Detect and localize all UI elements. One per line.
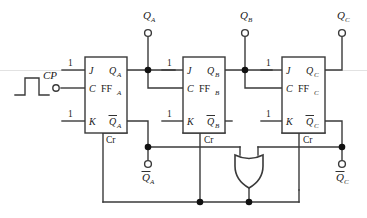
ffb-c-label: C <box>187 83 194 94</box>
ffc-c-label: C <box>286 83 293 94</box>
terminal-qb[interactable] <box>242 30 249 37</box>
ffb-name-sub: B <box>215 89 220 97</box>
ffc-qbar-label: Q <box>306 116 314 127</box>
label-qbara-sub: A <box>149 178 155 186</box>
ffc-j-label: J <box>286 65 291 76</box>
logic-one-kb: 1 <box>167 109 172 119</box>
ffb-q-sub: B <box>215 71 220 79</box>
label-qb: Q <box>240 9 248 21</box>
label-qb-sub: B <box>248 16 253 24</box>
junction-bus-crb <box>197 199 204 206</box>
terminal-qc[interactable] <box>339 30 346 37</box>
ffa-q-label: Q <box>109 65 117 76</box>
ffa-q-sub: A <box>116 71 122 79</box>
ffb-j-label: J <box>187 65 192 76</box>
logic-one-jb: 1 <box>167 58 172 68</box>
wire-qc-out <box>325 36 342 70</box>
ffc-cr-label: Cr <box>303 135 313 145</box>
ffa-qbar-label: Q <box>109 116 117 127</box>
cp-label: CP <box>43 69 57 81</box>
flipflop-b[interactable]: J C K FF B Q B Q B Cr <box>183 57 225 145</box>
ffc-q-sub: C <box>314 71 319 79</box>
ffc-name-sub: C <box>314 89 319 97</box>
label-qc: Q <box>337 9 345 21</box>
junction-bus-or <box>246 199 253 206</box>
junction-qb <box>242 67 249 74</box>
ffb-q-label: Q <box>207 65 215 76</box>
ffc-qbar-sub: C <box>314 122 319 130</box>
clock-source: CP <box>15 69 59 95</box>
or-gate[interactable] <box>235 155 263 188</box>
terminal-qbara[interactable] <box>145 161 152 168</box>
flipflop-c[interactable]: J C K FF C Q C Q C Cr <box>282 57 325 145</box>
flipflop-a[interactable]: J C K FF A Q A Q A Cr <box>85 57 127 145</box>
wire-qa-to-cb <box>148 70 183 88</box>
top-output-terminals[interactable]: Q A Q B Q C <box>143 9 350 36</box>
ffb-qbar-sub: B <box>215 122 220 130</box>
ffa-c-label: C <box>89 83 96 94</box>
ffa-j-label: J <box>89 65 94 76</box>
logic-one-ka: 1 <box>68 109 73 119</box>
ffa-qbar-sub: A <box>116 122 122 130</box>
label-qa: Q <box>143 9 151 21</box>
label-qbara: Q <box>142 171 150 183</box>
cp-terminal[interactable] <box>53 85 59 91</box>
ffb-cr-label: Cr <box>204 135 214 145</box>
circuit-diagram: CP 1 1 1 1 1 1 J C K FF A Q A Q A Cr J C… <box>0 0 367 218</box>
junction-qbarc <box>339 144 346 151</box>
ffa-name: FF <box>101 83 113 94</box>
ffc-k-label: K <box>285 116 294 127</box>
or-gate-body[interactable] <box>235 155 263 188</box>
label-qbarc-sub: C <box>344 178 349 186</box>
label-qbarc: Q <box>336 171 344 183</box>
circuit-canvas: CP 1 1 1 1 1 1 J C K FF A Q A Q A Cr J C… <box>0 0 367 218</box>
wire-qbara-out <box>127 121 148 147</box>
ffb-qbar-label: Q <box>207 116 215 127</box>
ffc-q-label: Q <box>306 65 314 76</box>
terminal-qa[interactable] <box>145 30 152 37</box>
junction-qa <box>145 67 152 74</box>
ffa-cr-label: Cr <box>106 135 116 145</box>
junction-qbara <box>145 144 152 151</box>
terminal-qbarc[interactable] <box>339 161 346 168</box>
label-qc-sub: C <box>345 16 350 24</box>
logic-one-jc: 1 <box>266 58 271 68</box>
ffc-name: FF <box>298 83 310 94</box>
label-qa-sub: A <box>150 16 156 24</box>
logic-one-ja: 1 <box>68 58 73 68</box>
ffa-name-sub: A <box>116 89 122 97</box>
logic-one-kc: 1 <box>266 109 271 119</box>
wire-qb-to-cc <box>245 70 282 88</box>
ffb-name: FF <box>199 83 211 94</box>
wire-qbarc-out <box>325 121 342 147</box>
ffb-k-label: K <box>186 116 195 127</box>
ffa-k-label: K <box>88 116 97 127</box>
